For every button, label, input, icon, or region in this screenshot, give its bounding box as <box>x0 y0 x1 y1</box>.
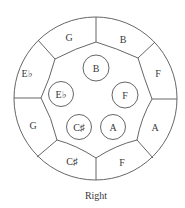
note-inner-bottom-right: A <box>109 122 117 133</box>
steel-pan-diagram: G B F A F C♯ G E♭ B E♭ F C♯ A Right <box>0 0 185 208</box>
inner-boundary <box>41 42 152 158</box>
divider-top-right <box>138 42 155 58</box>
note-outer-right-upper: F <box>155 68 161 79</box>
note-inner-right: F <box>122 90 128 101</box>
note-outer-bottom-right: F <box>119 157 125 168</box>
divider-bottom-right <box>137 140 153 158</box>
note-inner-top: B <box>93 63 100 74</box>
note-outer-left-upper: E♭ <box>22 68 33 79</box>
note-outer-top-right: B <box>120 34 127 45</box>
caption: Right <box>85 190 107 201</box>
note-inner-left: E♭ <box>56 89 67 100</box>
note-outer-left-lower: G <box>29 120 36 131</box>
note-outer-top-left: G <box>65 32 72 43</box>
note-outer-bottom-left: C♯ <box>66 156 78 167</box>
note-inner-bottom-left: C♯ <box>73 122 85 133</box>
note-outer-right-lower: A <box>151 122 159 133</box>
divider-top-left <box>38 40 55 59</box>
divider-bottom-left <box>37 140 57 157</box>
